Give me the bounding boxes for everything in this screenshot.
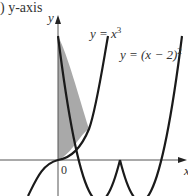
parabola-label-text: y = (x − 2) <box>120 47 177 62</box>
caption-prefix: ) <box>0 0 5 15</box>
figure-caption: ) y-axis <box>0 0 42 16</box>
cubic-label-exponent: 3 <box>117 25 122 35</box>
origin-label: 0 <box>61 164 67 176</box>
parabola-label-exponent: 2 <box>177 46 182 56</box>
caption-text: y-axis <box>8 0 42 15</box>
y-axis-arrow-icon <box>55 15 61 24</box>
curve-label-parabola: y = (x − 2)2 <box>120 44 182 62</box>
curve-label-cubic: y = x3 <box>90 23 121 41</box>
x-axis-label: x <box>184 164 188 178</box>
graph-figure: ) y-axis y x 0 y = x3 y = (x − 2)2 <box>0 0 188 196</box>
y-axis-label: y <box>48 11 54 25</box>
cubic-label-text: y = x <box>90 26 117 41</box>
